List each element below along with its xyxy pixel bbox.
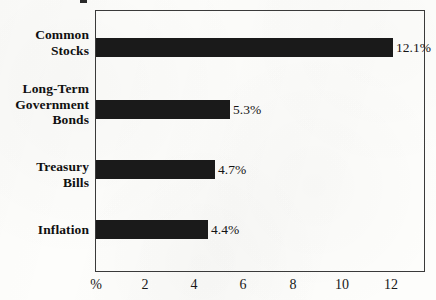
bar-value-treasury-bills: 4.7% [218, 160, 246, 179]
chart-page: Common Stocks Long-Term Government Bonds… [0, 0, 436, 300]
cropped-title-fragment [80, 0, 87, 3]
bar-treasury-bills [96, 160, 215, 179]
bar-value-long-term-government-bonds: 5.3% [233, 100, 261, 119]
category-label-treasury-bills: Treasury Bills [0, 159, 89, 190]
xtick-label-6: 6 [223, 276, 263, 294]
xtick-label-2: 2 [125, 276, 165, 294]
xtick-label-8: 8 [273, 276, 313, 294]
category-label-inflation: Inflation [0, 222, 89, 238]
bar-long-term-government-bonds [96, 100, 230, 119]
xtick-label-12: 12 [371, 276, 411, 294]
xtick-label-4: 4 [174, 276, 214, 294]
bar-inflation [96, 220, 208, 239]
bar-common-stocks [96, 38, 393, 57]
xtick-label-percent: % [76, 276, 116, 294]
bar-value-common-stocks: 12.1% [396, 38, 431, 57]
category-label-long-term-government-bonds: Long-Term Government Bonds [0, 81, 89, 128]
category-label-common-stocks: Common Stocks [0, 27, 89, 58]
bar-value-inflation: 4.4% [211, 220, 239, 239]
xtick-label-10: 10 [322, 276, 362, 294]
